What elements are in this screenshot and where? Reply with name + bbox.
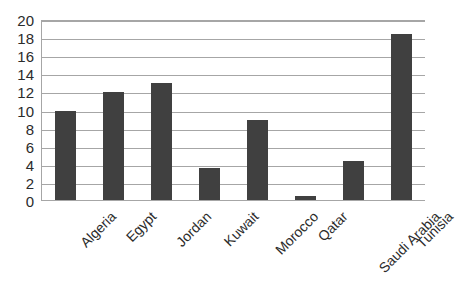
y-tick-label: 4 [26,157,34,172]
bar-slot [329,21,377,201]
x-tick-label: Algeria [78,209,119,250]
bar[interactable] [103,92,124,201]
bar-slot [138,21,186,201]
y-tick-label: 20 [17,13,34,28]
y-tick-label: 6 [26,139,34,154]
y-tick-label: 16 [17,49,34,64]
bar-series [42,21,425,201]
bar[interactable] [247,120,268,201]
x-tick-label: Kuwait [221,209,261,249]
bar[interactable] [55,111,76,202]
bar[interactable] [151,83,172,201]
bar-slot [234,21,282,201]
bar-slot [377,21,425,201]
x-axis: AlgeriaEgyptJordanKuwaitMoroccoQatarSaud… [41,201,425,295]
bar-slot [90,21,138,201]
y-tick-label: 8 [26,121,34,136]
x-tick-label: Qatar [315,209,350,244]
bar-slot [42,21,90,201]
bar[interactable] [199,168,220,201]
bar-slot [186,21,234,201]
y-tick-label: 18 [17,31,34,46]
plot-area [41,20,425,201]
y-tick-label: 2 [26,175,34,190]
bar[interactable] [391,34,412,201]
y-tick-label: 10 [17,103,34,118]
y-tick-label: 0 [26,194,34,209]
bar[interactable] [343,161,364,201]
x-tick-label: Egypt [123,209,159,245]
x-tick-label: Jordan [174,209,215,250]
y-tick-label: 14 [17,67,34,82]
y-axis: 20181614121086420 [0,20,38,201]
y-tick-label: 12 [17,85,34,100]
bar-slot [281,21,329,201]
